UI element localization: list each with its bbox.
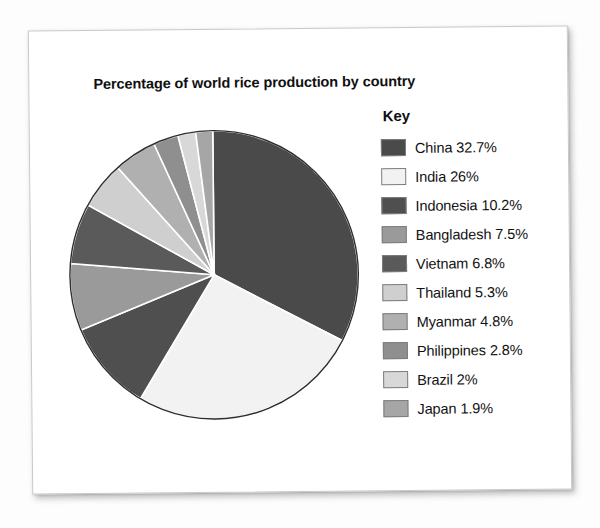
chart-page: Percentage of world rice production by c… <box>28 25 572 494</box>
page-title: Percentage of world rice production by c… <box>28 72 480 92</box>
legend-item[interactable]: Thailand 5.3% <box>382 276 562 307</box>
legend-swatch <box>382 255 407 272</box>
legend-swatch <box>382 284 407 301</box>
legend-swatch <box>383 342 408 359</box>
legend: Key China 32.7%India 26%Indonesia 10.2%B… <box>381 105 564 423</box>
legend-item-label: Vietnam 6.8% <box>416 255 505 272</box>
legend-item-label: Brazil 2% <box>417 371 477 388</box>
legend-rows: China 32.7%India 26%Indonesia 10.2%Bangl… <box>381 131 564 423</box>
legend-item-label: China 32.7% <box>415 139 497 156</box>
legend-item[interactable]: China 32.7% <box>381 131 561 162</box>
legend-item[interactable]: India 26% <box>381 160 561 191</box>
legend-item[interactable]: Philippines 2.8% <box>383 334 563 365</box>
legend-item-label: Philippines 2.8% <box>417 341 523 358</box>
legend-item[interactable]: Myanmar 4.8% <box>382 305 562 336</box>
legend-item-label: Thailand 5.3% <box>416 284 508 301</box>
legend-swatch <box>382 226 407 243</box>
legend-item[interactable]: Brazil 2% <box>383 363 563 394</box>
legend-swatch <box>383 400 408 417</box>
legend-item[interactable]: Vietnam 6.8% <box>382 247 562 278</box>
legend-swatch <box>381 197 406 214</box>
legend-swatch <box>383 313 408 330</box>
legend-swatch <box>383 371 408 388</box>
legend-item-label: Bangladesh 7.5% <box>416 225 528 242</box>
legend-item-label: India 26% <box>415 168 479 185</box>
legend-item[interactable]: Indonesia 10.2% <box>381 189 561 220</box>
legend-swatch <box>381 168 406 185</box>
legend-swatch <box>381 139 406 156</box>
legend-item[interactable]: Japan 1.9% <box>383 392 563 423</box>
legend-item[interactable]: Bangladesh 7.5% <box>382 218 562 249</box>
legend-item-label: Myanmar 4.8% <box>417 312 513 329</box>
pie-chart <box>67 127 362 422</box>
legend-heading: Key <box>383 105 561 124</box>
legend-item-label: Japan 1.9% <box>417 400 493 417</box>
legend-item-label: Indonesia 10.2% <box>415 196 522 213</box>
pie-chart-svg <box>67 127 362 422</box>
